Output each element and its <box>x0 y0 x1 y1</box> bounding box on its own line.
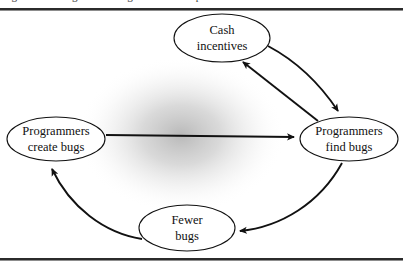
node-programmers-find-bugs[interactable]: Programmers find bugs <box>300 117 398 161</box>
node-cash-incentives-line1: Cash <box>210 23 236 37</box>
causal-loop-diagram: Cash incentives Programmers create bugs … <box>0 11 403 257</box>
figure-root: Figure 3-1. Programmer bug incentive loo… <box>0 0 403 271</box>
node-fewer-bugs-line1: Fewer <box>171 213 203 227</box>
clipped-caption-text: Figure 3-1. Programmer bug incentive loo… <box>0 0 403 8</box>
node-programmers-create-bugs[interactable]: Programmers create bugs <box>7 117 105 161</box>
node-programmers-create-bugs-line2: create bugs <box>28 140 85 154</box>
bottom-horizontal-rule <box>0 258 403 260</box>
node-programmers-create-bugs-line1: Programmers <box>22 124 89 138</box>
top-horizontal-rule <box>0 8 403 10</box>
node-fewer-bugs-line2: bugs <box>175 229 199 243</box>
node-programmers-find-bugs-line2: find bugs <box>326 140 373 154</box>
edge-cash-to-find <box>268 46 338 111</box>
node-cash-incentives-line2: incentives <box>197 39 248 53</box>
node-cash-incentives[interactable]: Cash incentives <box>174 14 270 62</box>
node-fewer-bugs[interactable]: Fewer bugs <box>139 205 235 251</box>
node-programmers-find-bugs-line1: Programmers <box>315 124 382 138</box>
